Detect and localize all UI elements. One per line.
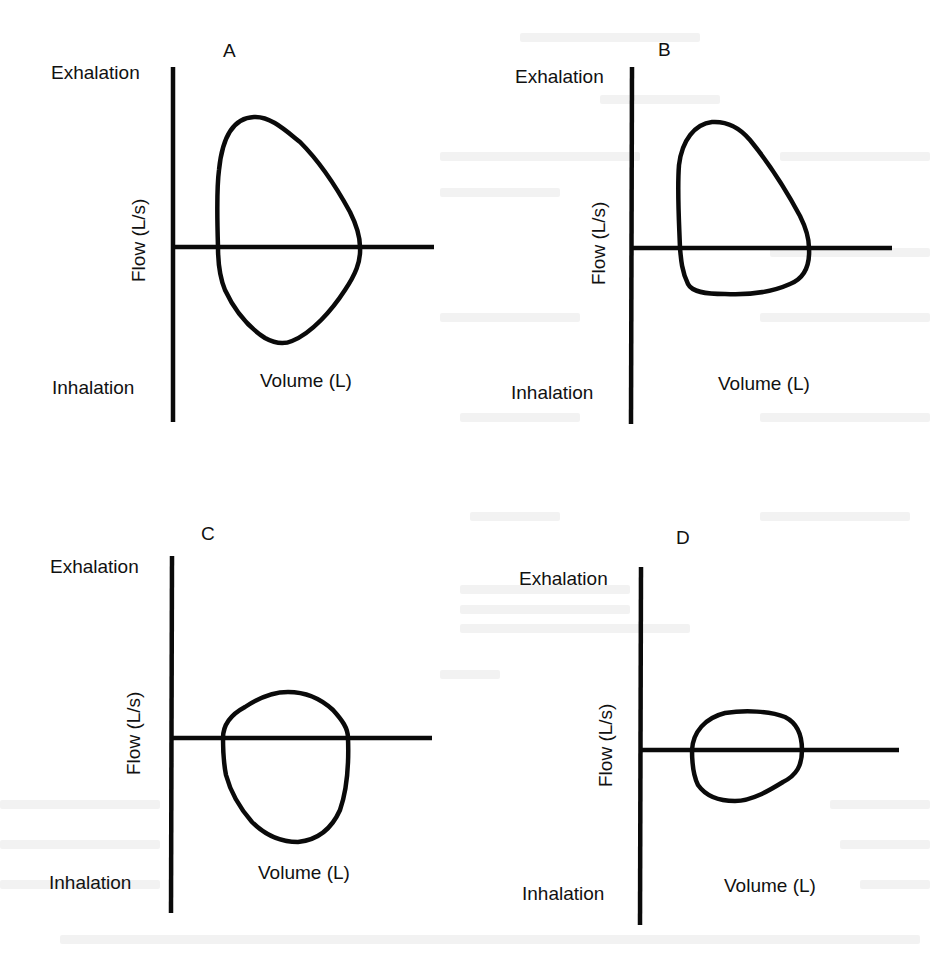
panel-d-plot: [640, 567, 899, 925]
panel-b-y-axis: [631, 67, 632, 424]
panel-c-exhalation-label: Exhalation: [50, 557, 139, 576]
panel-b-loop: [678, 122, 809, 294]
panel-c-volume-axis-label: Volume (L): [258, 863, 350, 882]
panel-a-exhalation-label: Exhalation: [51, 63, 140, 82]
panel-c-loop: [223, 692, 348, 842]
panel-d-letter: D: [676, 528, 690, 547]
panel-c-y-axis: [171, 556, 172, 913]
panel-b-volume-axis-label: Volume (L): [718, 374, 810, 393]
panel-a-flow-axis-label: Flow (L/s): [129, 199, 148, 282]
panel-d-exhalation-label: Exhalation: [519, 569, 608, 588]
panel-d-y-axis: [640, 567, 641, 925]
panel-b-plot: [631, 67, 892, 424]
flow-volume-loops: [0, 0, 937, 953]
panel-b-exhalation-label: Exhalation: [515, 67, 604, 86]
panel-a-inhalation-label: Inhalation: [52, 378, 134, 397]
panel-d-loop: [692, 711, 802, 801]
panel-a-volume-axis-label: Volume (L): [260, 371, 352, 390]
panel-a-letter: A: [223, 41, 236, 60]
panel-a-plot: [173, 67, 434, 422]
panel-b-flow-axis-label: Flow (L/s): [589, 202, 608, 285]
panel-c-inhalation-label: Inhalation: [49, 873, 131, 892]
panel-c-flow-axis-label: Flow (L/s): [124, 692, 143, 775]
panel-b-inhalation-label: Inhalation: [511, 383, 593, 402]
panel-c-letter: C: [201, 524, 215, 543]
panel-d-inhalation-label: Inhalation: [522, 884, 604, 903]
panel-b-letter: B: [658, 40, 671, 59]
panel-d-flow-axis-label: Flow (L/s): [596, 704, 615, 787]
panel-d-volume-axis-label: Volume (L): [724, 876, 816, 895]
panel-a-loop: [217, 117, 360, 343]
panel-c-plot: [171, 556, 432, 913]
